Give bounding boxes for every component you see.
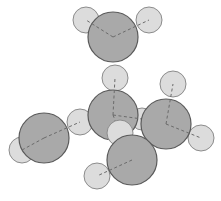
molecule-diagram — [0, 0, 221, 201]
light-atom-h7 — [188, 125, 214, 151]
atoms-layer — [9, 7, 214, 189]
light-atom-h10 — [84, 163, 110, 189]
